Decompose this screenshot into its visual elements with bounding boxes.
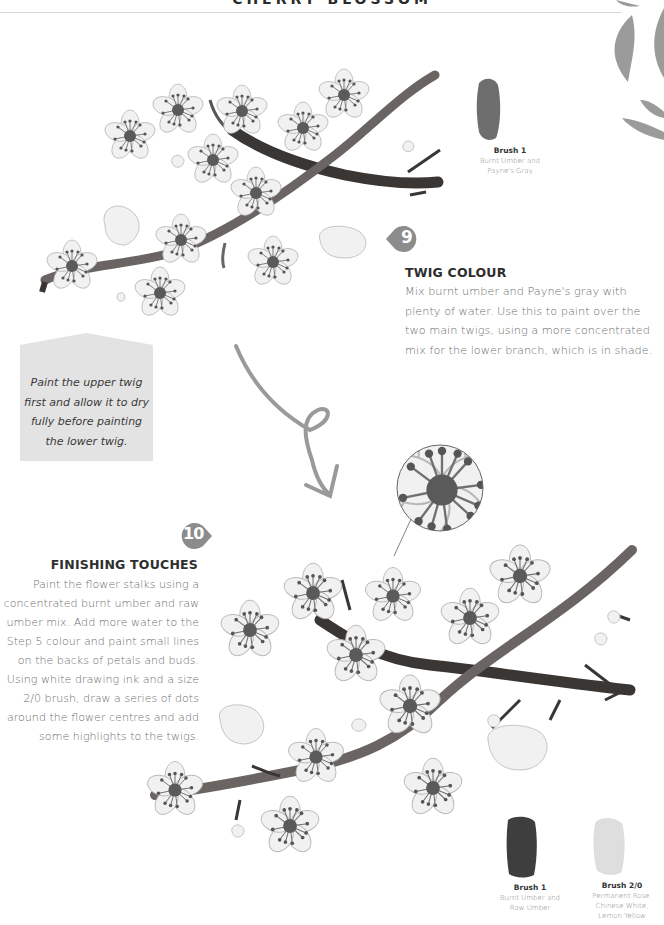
illustration-layer (0, 0, 664, 925)
swatch-brush1-top (477, 79, 500, 140)
step-badge-10: 10 (178, 523, 212, 549)
magnifier-detail (370, 422, 513, 558)
leaves-decoration (615, 0, 664, 140)
swatch-description: Payne's Gray (470, 166, 550, 176)
swatch-brush1-bottom (507, 817, 537, 878)
swatch-description: Permanent Rose, (582, 891, 662, 901)
swatch-name: Brush 1 (470, 145, 550, 156)
step-body: Mix burnt umber and Payne's gray with pl… (405, 282, 655, 360)
swatch-label: Brush 1 Burnt Umber and Raw Umber (490, 882, 570, 913)
branch-step10 (145, 545, 632, 856)
step-title: FINISHING TOUCHES (30, 557, 198, 572)
step-body: Paint the flower stalks using a concentr… (0, 575, 199, 746)
step-number: 10 (183, 524, 203, 543)
step-title: TWIG COLOUR (405, 265, 507, 280)
tip-text: Paint the upper twig first and allow it … (24, 373, 149, 451)
swatch-brush2-bottom (594, 818, 624, 874)
swatch-description: Raw Umber (490, 903, 570, 913)
arrow-decoration (236, 346, 337, 496)
swatch-description: Chinese White, (582, 901, 662, 911)
tip-note: Paint the upper twig first and allow it … (20, 333, 153, 461)
branch-step9 (42, 69, 440, 319)
step-number: 9 (401, 227, 413, 247)
swatch-description: Burnt Umber and (470, 156, 550, 166)
swatch-description: Burnt Umber and (490, 893, 570, 903)
swatch-description: Lemon Yellow (582, 911, 662, 921)
swatch-label: Brush 2/0 Permanent Rose, Chinese White,… (582, 880, 662, 921)
swatch-label: Brush 1 Burnt Umber and Payne's Gray (470, 145, 550, 176)
swatch-name: Brush 2/0 (582, 880, 662, 891)
swatch-name: Brush 1 (490, 882, 570, 893)
step-badge-9: 9 (386, 226, 420, 252)
